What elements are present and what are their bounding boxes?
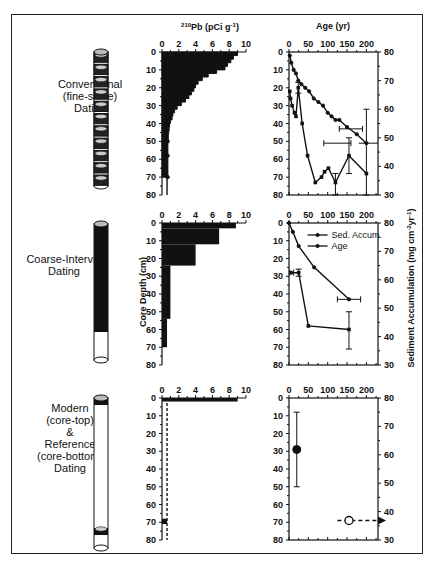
data-point — [355, 133, 358, 136]
y-tick-label: 80 — [273, 190, 283, 200]
y-tick-label: 0 — [151, 218, 156, 228]
y-tick-label: 30 — [146, 101, 156, 111]
data-point — [316, 233, 319, 236]
y-tick-label: 60 — [146, 154, 156, 164]
chart-pb-modern: 024681001020304050607080 — [146, 385, 251, 545]
y-tick-label: 0 — [278, 218, 283, 228]
x-tick-label: 8 — [227, 39, 232, 49]
arrow-right-icon — [378, 516, 386, 524]
age-line — [290, 56, 367, 144]
legend-label-age: Age — [332, 241, 348, 251]
core-segment-top — [95, 127, 107, 131]
data-point — [166, 175, 170, 179]
y-tick-label: 70 — [146, 517, 156, 527]
age-axis-title: Age (yr) — [316, 21, 350, 31]
data-point — [314, 181, 318, 185]
data-point — [330, 115, 333, 118]
y2-tick-label: 70 — [384, 76, 394, 86]
y-tick-label: 80 — [273, 535, 283, 545]
data-point — [313, 266, 316, 269]
data-point — [306, 154, 310, 158]
x-tick-label: 100 — [320, 210, 335, 220]
x-tick-label: 100 — [320, 39, 335, 49]
y-tick-label: 20 — [273, 254, 283, 264]
data-point — [290, 104, 294, 108]
x-tick-label: 150 — [340, 210, 355, 220]
y-tick-label: 20 — [146, 83, 156, 93]
x-tick-label: 10 — [241, 385, 251, 395]
data-point — [316, 244, 319, 247]
y-tick-label: 50 — [146, 482, 156, 492]
y-tick-label: 60 — [146, 500, 156, 510]
core-bottom — [94, 545, 108, 551]
data-point — [294, 72, 297, 75]
core-top — [94, 221, 108, 227]
y-tick-label: 60 — [146, 325, 156, 335]
y-tick-label: 50 — [273, 482, 283, 492]
x-tick-label: 50 — [303, 385, 313, 395]
y-tick-label: 70 — [146, 172, 156, 182]
y-tick-label: 70 — [146, 342, 156, 352]
y-tick-label: 10 — [273, 236, 283, 246]
core-segment-top — [95, 65, 107, 69]
data-point — [338, 118, 341, 121]
y2-tick-label: 40 — [384, 161, 394, 171]
x-tick-label: 200 — [359, 39, 374, 49]
y-tick-label: 60 — [273, 325, 283, 335]
y-tick-label: 10 — [146, 411, 156, 421]
x-tick-label: 150 — [340, 39, 355, 49]
core-top — [94, 395, 108, 401]
y-tick-label: 10 — [146, 65, 156, 75]
pb-axis-title: 210Pb (pCi g-1) — [181, 22, 239, 32]
core-sediment — [94, 224, 108, 332]
y-tick-label: 60 — [273, 154, 283, 164]
y-tick-label: 20 — [273, 429, 283, 439]
legend-label-sed: Sed. Accum. — [332, 230, 383, 240]
x-tick-label: 2 — [176, 39, 181, 49]
y2-tick-label: 70 — [384, 246, 394, 256]
y-tick-label: 40 — [273, 119, 283, 129]
y-tick-label: 50 — [146, 136, 156, 146]
data-point — [288, 90, 292, 94]
pb-interval-bar — [162, 319, 167, 347]
core-segment-top — [95, 176, 107, 180]
y2-tick-label: 50 — [384, 303, 394, 313]
data-point — [334, 118, 337, 121]
x-tick-label: 10 — [241, 210, 251, 220]
x-tick-label: 0 — [159, 39, 164, 49]
data-point — [293, 445, 301, 453]
x-tick-label: 6 — [210, 210, 215, 220]
y2-tick-label: 50 — [384, 133, 394, 143]
x-tick-label: 6 — [210, 385, 215, 395]
core-segment-top — [95, 102, 107, 106]
x-tick-label: 0 — [286, 210, 291, 220]
x-tick-label: 4 — [193, 210, 198, 220]
x-tick-label: 50 — [303, 39, 313, 49]
y2-tick-label: 80 — [384, 47, 394, 57]
data-point — [291, 230, 294, 233]
data-point — [304, 86, 307, 89]
core-illustrations — [94, 49, 108, 551]
y-tick-label: 10 — [273, 411, 283, 421]
y-tick-label: 10 — [273, 65, 283, 75]
data-point — [288, 54, 291, 57]
y-tick-label: 40 — [273, 289, 283, 299]
x-tick-label: 8 — [227, 210, 232, 220]
y-tick-label: 20 — [273, 83, 283, 93]
chart-pb-coarse: 024681001020304050607080 — [146, 210, 251, 370]
data-point — [312, 97, 315, 100]
y2-tick-label: 40 — [384, 332, 394, 342]
core-segment-top — [95, 77, 107, 81]
x-tick-label: 200 — [359, 385, 374, 395]
x-tick-label: 0 — [286, 385, 291, 395]
data-point — [292, 68, 295, 71]
y2-tick-label: 80 — [384, 218, 394, 228]
pb-profile-fill — [162, 52, 238, 177]
x-tick-label: 0 — [286, 39, 291, 49]
pb-interval-bar — [162, 228, 219, 244]
data-point — [287, 221, 290, 224]
x-tick-label: 0 — [159, 385, 164, 395]
data-point — [166, 154, 170, 158]
data-point — [297, 244, 300, 247]
data-point — [345, 125, 348, 128]
